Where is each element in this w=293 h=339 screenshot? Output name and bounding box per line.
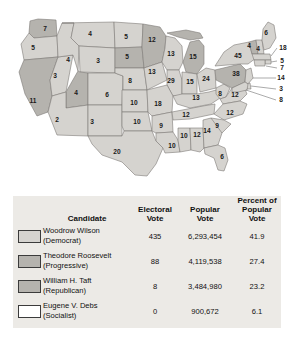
results-table-panel: Candidate Electoral Vote Popular Vote Pe… [13,196,281,328]
electoral-vote-cell: 0 [133,299,177,324]
state-ME [262,22,276,50]
popular-vote-cell: 900,672 [177,299,233,324]
state-vote-AR: 9 [159,122,163,129]
state-vote-LA: 10 [168,142,176,149]
state-vote-IL: 29 [167,77,175,84]
state-vote-SD: 5 [125,53,129,60]
table-row: Eugene V. Debs(Socialist)0900,6726.1 [13,299,281,324]
state-vote-MD: 8 [279,96,283,103]
state-vote-IN: 15 [186,78,194,85]
state-CO [88,73,123,105]
header-electoral-vote: Electoral Vote [133,196,177,224]
state-vote-NE: 8 [128,77,132,84]
state-vote-DE: 3 [279,85,283,92]
state-vote-FL: 6 [220,153,224,160]
results-table: Candidate Electoral Vote Popular Vote Pe… [13,196,281,324]
candidate-party: (Progressive) [43,261,133,271]
state-vote-MT: 4 [88,30,92,37]
state-vote-OR: 5 [31,44,35,51]
candidate-party: (Democrat) [43,236,133,246]
header-percent-line1: Percent of [237,196,276,205]
state-TX [88,131,163,176]
state-vote-KY: 13 [192,94,200,101]
state-ND [114,22,143,48]
state-vote-PA: 38 [232,70,240,77]
popular-vote-cell: 6,293,454 [177,224,233,249]
electoral-map: 7511344342365581010201213131529152418910… [0,0,293,190]
state-vote-MN: 12 [148,36,156,43]
state-vote-ME: 6 [264,29,268,36]
state-vote-CT: 7 [280,64,284,71]
wilson-swatch [18,230,41,243]
state-vote-NY: 45 [234,52,242,59]
candidate-cell: Eugene V. Debs(Socialist) [43,299,133,324]
header-percent: Percent of Popular Vote [233,196,281,224]
state-vote-SC: 9 [215,122,219,129]
state-vote-TN: 12 [182,111,190,118]
electoral-vote-cell: 8 [133,274,177,299]
state-vote-VA: 12 [231,91,239,98]
state-vote-NJ: 14 [277,74,285,81]
state-SD [115,47,144,68]
debs-swatch [18,305,41,318]
state-vote-GA: 14 [203,127,211,134]
candidate-name: Eugene V. Debs [43,301,98,310]
state-vote-AZ: 2 [55,116,59,123]
header-swatch [13,196,43,224]
electoral-vote-cell: 88 [133,249,177,274]
state-vote-MA: 18 [279,44,287,51]
percent-cell: 41.9 [233,224,281,249]
state-vote-IA: 13 [148,68,156,75]
candidate-name: Theodore Roosevelt [43,251,111,260]
state-vote-NC: 12 [226,109,234,116]
swatch-cell [13,299,43,324]
state-vote-CA: 11 [30,97,37,104]
table-body: Woodrow Wilson(Democrat)4356,293,45441.9… [13,224,281,324]
state-RI [265,60,271,64]
state-MA [252,54,271,60]
taft-swatch [18,280,41,293]
state-vote-TX: 20 [113,148,121,155]
table-head: Candidate Electoral Vote Popular Vote Pe… [13,196,281,224]
electoral-vote-cell: 435 [133,224,177,249]
state-vote-NM: 3 [90,118,94,125]
state-vote-AL: 12 [193,131,201,138]
swatch-cell [13,274,43,299]
swatch-cell [13,224,43,249]
election-map-figure: 7511344342365581010201213131529152418910… [0,0,293,339]
state-vote-OK: 10 [133,118,141,125]
percent-cell: 27.4 [233,249,281,274]
header-percent-line2: Popular Vote [242,205,272,223]
candidate-cell: Theodore Roosevelt(Progressive) [43,249,133,274]
state-vote-CO: 6 [105,91,109,98]
header-electoral-vote-line2: Vote [147,214,164,223]
percent-cell: 23.2 [233,274,281,299]
header-popular-vote: Popular Vote [177,196,233,224]
table-row: William H. Taft(Republican)83,484,98023.… [13,274,281,299]
state-CT [254,60,265,66]
state-vote-ND: 5 [124,33,128,40]
candidate-name: Woodrow Wilson [43,226,100,235]
state-vote-WI: 13 [167,50,175,57]
state-vote-MI: 15 [189,53,197,60]
state-vote-RI: 5 [280,57,284,64]
candidate-party: (Socialist) [43,311,133,321]
state-vote-WA: 7 [43,25,47,32]
state-vote-NH: 4 [256,45,260,52]
swatch-cell [13,249,43,274]
header-candidate: Candidate [43,196,133,224]
state-vote-VT: 4 [247,42,251,49]
header-popular-vote-line1: Popular [190,205,220,214]
candidate-cell: William H. Taft(Republican) [43,274,133,299]
table-row: Theodore Roosevelt(Progressive)884,119,5… [13,249,281,274]
state-vote-OH: 24 [202,75,210,82]
state-vote-MO: 18 [154,100,162,107]
us-map-svg: 7511344342365581010201213131529152418910… [0,0,293,190]
percent-cell: 6.1 [233,299,281,324]
candidate-party: (Republican) [43,286,133,296]
state-vote-KS: 10 [130,99,138,106]
state-FL [204,145,228,171]
header-popular-vote-line2: Vote [197,214,214,223]
popular-vote-cell: 3,484,980 [177,274,233,299]
header-electoral-vote-line1: Electoral [138,205,172,214]
